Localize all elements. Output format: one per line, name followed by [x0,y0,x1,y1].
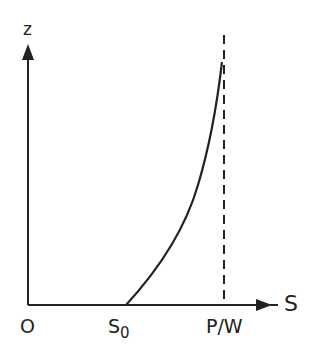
s0-main: S [108,315,120,337]
asymptote-label: P/W [206,317,243,336]
x-axis-arrow-icon [256,299,272,311]
diagram-canvas [0,0,320,355]
x-axis-label: S [284,293,298,315]
s0-subscript: 0 [120,324,130,342]
s0-label: S0 [108,317,130,336]
y-axis-label: z [23,21,32,38]
origin-label: O [20,317,35,336]
curve [126,62,222,305]
y-axis-arrow-icon [22,44,34,60]
